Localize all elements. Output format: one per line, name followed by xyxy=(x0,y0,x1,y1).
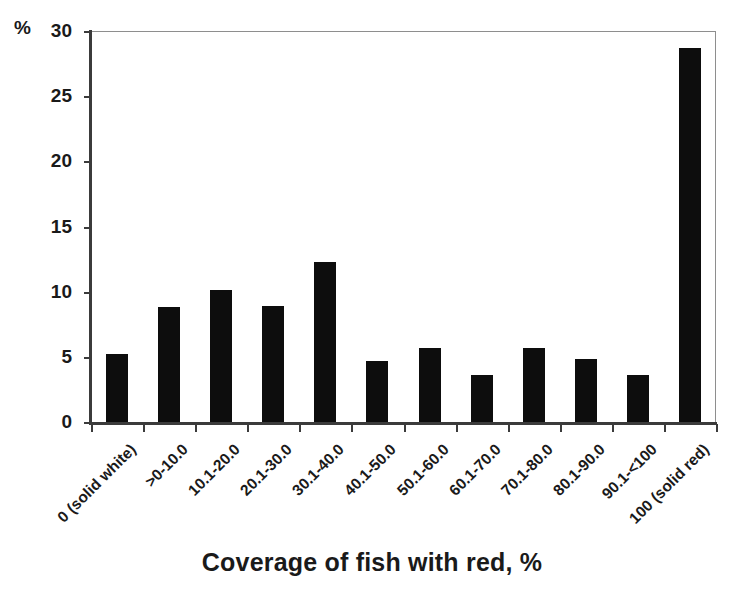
x-tick-mark xyxy=(404,424,406,432)
x-tick-mark xyxy=(299,424,301,432)
x-tick-mark xyxy=(143,424,145,432)
bar xyxy=(471,375,493,422)
x-axis-title: Coverage of fish with red, % xyxy=(0,548,744,577)
bar xyxy=(679,48,701,422)
bar xyxy=(575,359,597,422)
x-tick-mark xyxy=(91,424,93,432)
bar xyxy=(627,375,649,422)
x-tick-mark xyxy=(247,424,249,432)
bar-chart-figure: % 051015202530 0 (solid white)>0-10.010.… xyxy=(0,0,744,594)
x-tick-mark xyxy=(351,424,353,432)
bar xyxy=(158,307,180,422)
bar xyxy=(314,262,336,422)
x-tick-mark xyxy=(716,424,718,432)
x-tick-mark xyxy=(195,424,197,432)
bars-layer: 0 (solid white)>0-10.010.1-20.020.1-30.0… xyxy=(0,0,744,594)
x-tick-mark xyxy=(612,424,614,432)
x-tick-mark xyxy=(560,424,562,432)
bar xyxy=(523,348,545,422)
bar xyxy=(419,348,441,422)
bar xyxy=(210,290,232,422)
bar xyxy=(106,354,128,422)
bar xyxy=(366,361,388,422)
bar xyxy=(262,306,284,422)
x-tick-mark xyxy=(508,424,510,432)
x-tick-mark xyxy=(456,424,458,432)
x-tick-mark xyxy=(664,424,666,432)
